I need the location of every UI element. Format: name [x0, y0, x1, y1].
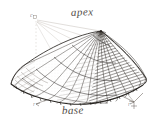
- cone-engraving-figure: apex base c r r: [0, 0, 154, 135]
- apex-label: apex: [71, 6, 94, 18]
- base-right-tick-label: r: [128, 101, 130, 107]
- base-label: base: [62, 105, 84, 116]
- vertex-c-label: c: [30, 12, 33, 18]
- base-left-tick-label: r: [33, 101, 35, 107]
